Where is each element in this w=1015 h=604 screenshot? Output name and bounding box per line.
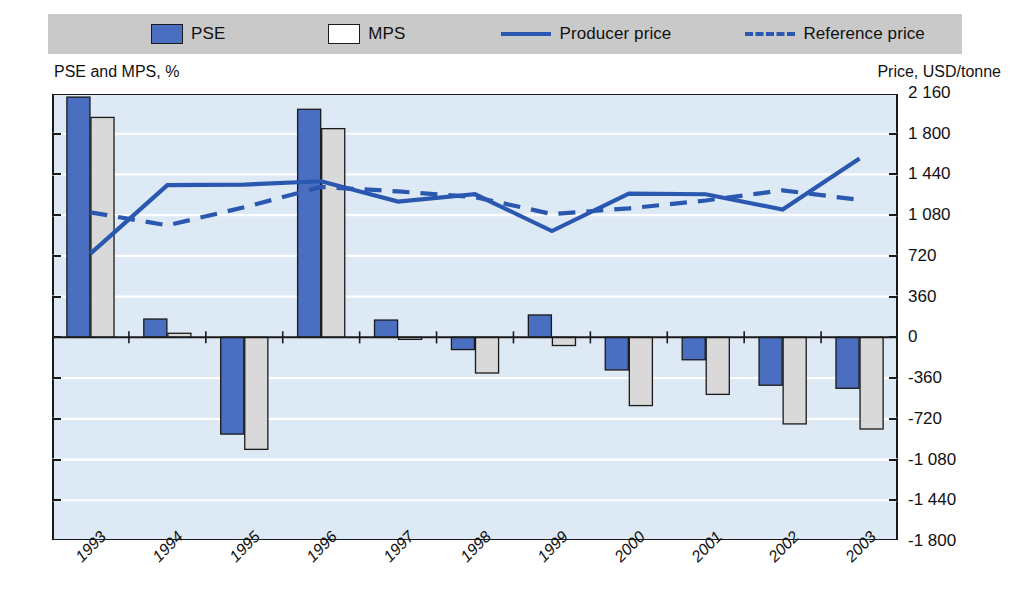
bar-mps-2001 [706,337,729,394]
bar-pse-1995 [221,337,244,434]
y2-axis-tick-label: 720 [908,246,936,266]
left-axis-caption: PSE and MPS, % [54,63,179,81]
legend-item-reference-price: Reference price [745,24,925,44]
y2-axis-tick-label: 1 080 [908,205,951,225]
legend-item-mps: MPS [328,24,405,44]
y2-axis-tick-label: 1 800 [908,124,951,144]
y2-axis-tick-label: -360 [908,368,942,388]
bar-pse-2002 [759,337,782,385]
right-axis-caption: Price, USD/tonne [877,63,1001,81]
y-axis-tick-mark [52,499,61,501]
bar-mps-1993 [91,117,114,337]
y2-axis-tick-label: -1 440 [908,490,956,510]
y2-axis-tick-label: -1 800 [908,531,956,551]
legend-item-pse: PSE [151,24,225,44]
y2-axis-tick-label: 1 440 [908,164,951,184]
bar-pse-1996 [298,109,321,337]
y-axis-tick-mark [52,173,61,175]
legend-label-pse: PSE [191,24,225,44]
legend-label-reference-price: Reference price [803,24,925,44]
solid-line-swatch-icon [501,32,551,36]
y2-axis-tick-mark [889,214,898,216]
bar-pse-2003 [836,337,859,388]
legend-label-mps: MPS [368,24,405,44]
dashed-line-swatch-icon [745,32,795,36]
y2-axis-tick-mark [889,296,898,298]
y-axis-tick-mark [52,377,61,379]
y2-axis-tick-label: 360 [908,287,936,307]
y2-axis-tick-mark [889,418,898,420]
bar-mps-1995 [245,337,268,449]
y-axis-tick-mark [52,418,61,420]
bar-pse-1999 [528,315,551,337]
line-producer-price [90,159,859,254]
bar-mps-1996 [322,129,345,338]
bar-pse-1998 [451,337,474,349]
blue-square-swatch-icon [151,24,183,44]
y-axis-tick-mark [52,214,61,216]
y2-axis-tick-label: 2 160 [908,83,951,103]
y2-axis-tick-mark [889,255,898,257]
y2-axis-tick-label: -1 080 [908,450,956,470]
chart-legend: PSE MPS Producer price Reference price [48,14,962,54]
white-square-swatch-icon [328,24,360,44]
plot-area [52,93,898,541]
plot-graphics [52,93,898,541]
bar-mps-1998 [476,337,499,373]
chart-container: PSE MPS Producer price Reference price P… [0,0,1015,604]
bar-pse-1997 [375,320,398,337]
y2-axis-tick-mark [889,459,898,461]
y2-axis-tick-mark [889,336,898,338]
y2-axis-tick-mark [889,377,898,379]
bar-mps-2002 [783,337,806,424]
y-axis-tick-mark [52,459,61,461]
bar-mps-2000 [629,337,652,405]
y2-axis-tick-mark [889,499,898,501]
bar-pse-1993 [67,97,90,337]
legend-label-producer-price: Producer price [559,24,671,44]
y-axis-tick-mark [52,296,61,298]
y-axis-tick-mark [52,133,61,135]
y2-axis-tick-label: 0 [908,327,917,347]
y2-axis-tick-mark [889,133,898,135]
bar-mps-1999 [552,337,575,345]
y2-axis-tick-label: -720 [908,409,942,429]
y-axis-tick-mark [52,336,61,338]
y-axis-tick-mark [52,255,61,257]
bar-mps-2003 [860,337,883,429]
legend-item-producer-price: Producer price [501,24,671,44]
bar-pse-1994 [144,319,167,337]
bar-pse-2000 [605,337,628,370]
y2-axis-tick-mark [889,173,898,175]
bar-pse-2001 [682,337,705,359]
